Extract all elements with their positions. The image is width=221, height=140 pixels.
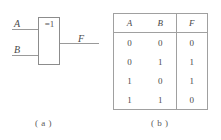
input-b-wire <box>12 55 39 56</box>
input-a-wire <box>12 29 39 30</box>
input-a-label: A <box>14 18 20 29</box>
truth-table-header-row: A B F <box>114 14 208 33</box>
cell-a: 1 <box>114 71 145 90</box>
column-header-a: A <box>114 14 145 33</box>
circuit-diagram-panel: =1 A B F <box>0 0 105 140</box>
cell-b: 0 <box>145 71 176 90</box>
cell-a: 0 <box>114 33 145 53</box>
cell-b: 1 <box>145 90 176 110</box>
cell-b: 1 <box>145 52 176 71</box>
cell-f: 0 <box>176 33 207 53</box>
cell-f: 1 <box>176 71 207 90</box>
truth-table: A B F 0 0 0 0 1 1 1 0 <box>113 13 208 110</box>
table-row: 0 0 0 <box>114 33 208 53</box>
gate-symbol-label: =1 <box>40 19 59 29</box>
caption-a: ( a ) <box>35 118 52 129</box>
table-row: 0 1 1 <box>114 52 208 71</box>
table-row: 1 1 0 <box>114 90 208 110</box>
input-b-label: B <box>14 44 20 55</box>
column-header-b: B <box>145 14 176 33</box>
cell-b: 0 <box>145 33 176 53</box>
truth-table-head: A B F <box>114 14 208 33</box>
figure-container: =1 A B F ( a ) A B F 0 0 0 0 <box>0 0 221 140</box>
cell-a: 1 <box>114 90 145 110</box>
cell-f: 0 <box>176 90 207 110</box>
cell-f: 1 <box>176 52 207 71</box>
truth-table-panel: A B F 0 0 0 0 1 1 1 0 <box>113 13 208 109</box>
table-row: 1 0 1 <box>114 71 208 90</box>
output-f-label: F <box>78 33 84 44</box>
cell-a: 0 <box>114 52 145 71</box>
caption-b: ( b ) <box>151 118 169 129</box>
column-header-f: F <box>176 14 207 33</box>
truth-table-body: 0 0 0 0 1 1 1 0 1 1 1 0 <box>114 33 208 110</box>
